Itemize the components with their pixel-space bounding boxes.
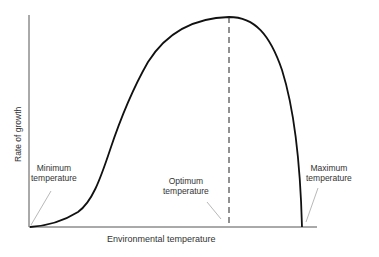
maximum-temperature-label: Maximum temperature (306, 163, 352, 183)
x-axis-label: Environmental temperature (107, 234, 216, 244)
maximum-label-line2: temperature (306, 173, 352, 183)
maximum-label-line1: Maximum (306, 163, 352, 173)
y-axis-label: Rate of growth (13, 107, 23, 162)
optimum-temperature-label: Optimum temperature (163, 176, 209, 196)
minimum-leader-line (31, 191, 51, 225)
minimum-temperature-label: Minimum temperature (31, 163, 77, 183)
optimum-label-line1: Optimum (163, 176, 209, 186)
growth-chart (0, 0, 379, 257)
optimum-label-line2: temperature (163, 186, 209, 196)
optimum-leader-line (207, 202, 221, 219)
maximum-leader-line (306, 188, 318, 222)
minimum-label-line1: Minimum (31, 163, 77, 173)
minimum-label-line2: temperature (31, 173, 77, 183)
